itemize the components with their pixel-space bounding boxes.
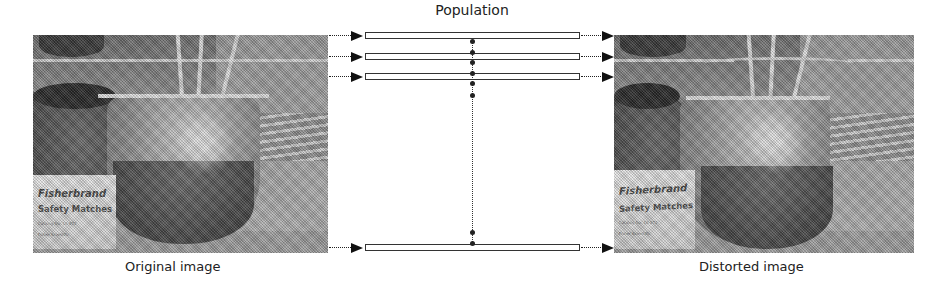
output-line <box>581 76 603 77</box>
matchbox-product: Safety Matches <box>38 204 112 214</box>
individual-bar <box>365 32 580 39</box>
horizontal-line <box>848 59 914 62</box>
matchbox-maker: Fisher Scientific <box>38 232 69 237</box>
matchbox-brand: Fisherbrand <box>38 188 106 199</box>
matchbox: Fisherbrand Safety Matches Catalog No. 1… <box>33 175 116 249</box>
connector-dot <box>470 81 475 86</box>
arrow-right-icon <box>351 72 363 82</box>
matchbox-catalog: Catalog No. 10-872 <box>38 221 77 226</box>
output-line <box>581 56 603 57</box>
input-line <box>329 35 351 36</box>
pitcher-lower <box>701 166 833 249</box>
connector-dot <box>470 50 475 55</box>
connector-dot <box>470 71 475 76</box>
original-image-caption: Original image <box>125 259 221 274</box>
arrow-right-icon <box>351 31 363 41</box>
output-line <box>581 247 603 248</box>
pitcher-rim <box>98 94 269 98</box>
connector-dot <box>470 230 475 235</box>
distorted-image-caption: Distorted image <box>699 259 804 274</box>
pitcher-highlight <box>746 109 806 174</box>
mug-top <box>620 35 686 57</box>
population-title: Population <box>402 2 542 18</box>
distorted-image: Fisherbrand Safety Matches Catalog No. 1… <box>614 35 914 253</box>
connector-dot <box>470 39 475 44</box>
input-line <box>329 56 351 57</box>
distortion-wave <box>704 57 854 70</box>
matchbox-maker: Fisher Scientific <box>619 231 650 236</box>
arrow-right-icon <box>351 243 363 253</box>
mug-rim <box>614 83 680 109</box>
matchbox-catalog: Catalog No. 10-872 <box>619 220 658 225</box>
input-line <box>329 76 351 77</box>
arrow-right-icon <box>602 31 614 41</box>
original-image: Fisherbrand Safety Matches Catalog No. 1… <box>33 35 328 253</box>
connector-dot <box>470 93 475 98</box>
pitcher-rim <box>686 96 830 100</box>
matchbox: Fisherbrand Safety Matches Catalog No. 1… <box>614 170 695 248</box>
arrow-right-icon <box>602 243 614 253</box>
arrow-right-icon <box>602 52 614 62</box>
arrow-right-icon <box>602 72 614 82</box>
output-line <box>581 35 603 36</box>
connector-dot <box>470 241 475 246</box>
mug-top <box>39 35 104 57</box>
connector-dot <box>470 60 475 65</box>
matchbox-product: Safety Matches <box>619 200 693 214</box>
pitcher-highlight <box>175 109 234 174</box>
arrow-right-icon <box>351 52 363 62</box>
matchbox-brand: Fisherbrand <box>619 182 687 197</box>
input-line <box>329 247 351 248</box>
